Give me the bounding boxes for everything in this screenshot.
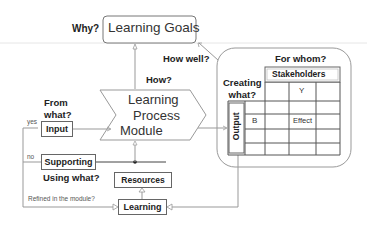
supporting-box[interactable]: Supporting (41, 154, 96, 170)
learning-goals-box[interactable]: Learning Goals (108, 21, 200, 35)
yes-label: yes (27, 119, 37, 126)
resources-box[interactable]: Resources (114, 172, 172, 188)
process-module[interactable]: Learning Process Module (120, 92, 200, 138)
for-whom-label: For whom? (275, 54, 326, 64)
process-line-1: Learning (120, 92, 200, 108)
using-what-label: Using what? (43, 173, 99, 183)
refined-question: Refined in the module? (28, 196, 95, 203)
stakeholders-header: Stakeholders (272, 70, 325, 79)
from-what-label: From what? (44, 97, 71, 121)
row-b-label: B (252, 117, 257, 125)
process-line-3: Module (120, 123, 200, 139)
how-label: How? (146, 75, 172, 85)
how-well-label: How well? (163, 54, 209, 64)
input-box[interactable]: Input (41, 121, 73, 137)
output-box[interactable]: Output (232, 105, 241, 147)
no-label: no (27, 154, 34, 161)
why-question: Why? (72, 24, 99, 34)
creating-what-label: Creating what? (223, 77, 262, 101)
column-y-label: Y (299, 87, 304, 95)
process-line-2: Process (120, 108, 200, 124)
learning-box[interactable]: Learning (118, 199, 167, 215)
effect-cell: Effect (293, 117, 312, 125)
